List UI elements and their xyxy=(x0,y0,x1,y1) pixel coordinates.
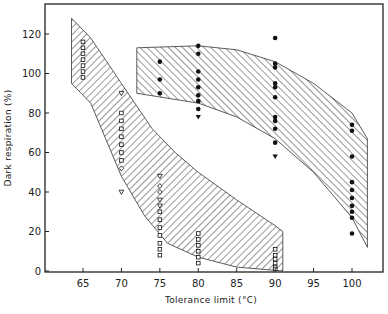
data-point-filled-circle xyxy=(273,36,278,41)
data-point-filled-circle xyxy=(196,99,201,104)
data-point-open-square xyxy=(81,64,85,68)
data-point-open-square xyxy=(273,261,277,265)
data-point-open-square xyxy=(81,46,85,50)
x-tick-label: 80 xyxy=(192,278,205,289)
data-point-open-square xyxy=(273,253,277,257)
data-point-filled-circle xyxy=(350,123,355,128)
x-tick-label: 85 xyxy=(230,278,243,289)
y-tick-label: 80 xyxy=(28,108,41,119)
data-point-filled-circle xyxy=(196,44,201,49)
y-tick-label: 60 xyxy=(28,147,41,158)
data-point-open-square xyxy=(158,247,162,251)
data-point-open-square xyxy=(196,232,200,236)
data-point-filled-circle xyxy=(196,51,201,56)
data-point-filled-circle xyxy=(196,107,201,112)
confidence-bands xyxy=(72,18,368,271)
data-point-open-square xyxy=(120,135,124,139)
data-point-filled-circle xyxy=(273,85,278,90)
data-point-filled-circle xyxy=(350,204,355,209)
data-point-open-square xyxy=(120,159,124,163)
data-point-open-square xyxy=(120,111,124,115)
data-point-open-square xyxy=(120,127,124,131)
data-point-open-square xyxy=(158,218,162,222)
y-axis-label: Dark respiration (%) xyxy=(3,89,13,186)
data-point-filled-circle xyxy=(350,128,355,133)
data-point-filled-circle xyxy=(273,65,278,70)
y-tick-label: 120 xyxy=(22,29,41,40)
data-point-open-square xyxy=(196,255,200,259)
data-point-filled-circle xyxy=(350,231,355,236)
data-point-open-square xyxy=(158,210,162,214)
x-tick-label: 75 xyxy=(153,278,166,289)
data-point-open-square xyxy=(81,76,85,80)
x-tick-label: 90 xyxy=(269,278,282,289)
data-point-open-square xyxy=(81,70,85,74)
data-point-filled-circle xyxy=(350,180,355,185)
data-point-open-square xyxy=(196,261,200,265)
data-point-filled-circle xyxy=(273,61,278,66)
y-tick-label: 20 xyxy=(28,226,41,237)
data-point-open-square xyxy=(120,143,124,147)
data-point-filled-circle xyxy=(196,69,201,74)
data-point-open-square xyxy=(81,58,85,62)
data-point-filled-circle xyxy=(158,91,163,96)
data-point-filled-triangle xyxy=(196,115,201,120)
data-point-open-square xyxy=(120,151,124,155)
data-point-filled-circle xyxy=(350,209,355,214)
data-point-filled-circle xyxy=(273,127,278,132)
data-point-filled-circle xyxy=(350,188,355,193)
data-point-open-square xyxy=(158,234,162,238)
data-point-filled-circle xyxy=(350,215,355,220)
data-point-filled-circle xyxy=(273,115,278,120)
data-point-filled-circle xyxy=(196,85,201,90)
y-tick-label: 100 xyxy=(22,68,41,79)
x-axis-label: Tolerance limit (°C) xyxy=(164,295,257,305)
data-point-open-square xyxy=(196,238,200,242)
x-tick-label: 70 xyxy=(115,278,128,289)
data-point-filled-circle xyxy=(273,95,278,100)
x-tick-label: 100 xyxy=(342,278,361,289)
data-point-filled-circle xyxy=(350,154,355,159)
data-point-filled-circle xyxy=(196,77,201,82)
data-point-open-square xyxy=(196,249,200,253)
data-point-open-square xyxy=(158,242,162,246)
data-point-filled-circle xyxy=(273,140,278,145)
x-tick-label: 95 xyxy=(307,278,320,289)
x-tick-label: 65 xyxy=(77,278,90,289)
data-point-open-square xyxy=(158,226,162,230)
data-point-open-square xyxy=(81,52,85,56)
scatter-chart: 65707580859095100 020406080100120 Tolera… xyxy=(0,0,388,314)
x-axis-ticks: 65707580859095100 xyxy=(77,268,362,289)
data-point-open-square xyxy=(81,40,85,44)
data-point-filled-circle xyxy=(273,119,278,124)
data-point-filled-circle xyxy=(196,93,201,98)
data-point-filled-circle xyxy=(350,196,355,201)
data-point-open-triangle xyxy=(119,190,124,194)
data-point-filled-circle xyxy=(273,81,278,86)
data-point-filled-circle xyxy=(158,59,163,64)
data-point-open-square xyxy=(120,119,124,123)
data-point-open-square xyxy=(273,247,277,251)
data-point-open-square xyxy=(273,257,277,261)
data-point-open-square xyxy=(196,244,200,248)
y-tick-label: 40 xyxy=(28,187,41,198)
data-point-filled-circle xyxy=(158,77,163,82)
data-point-filled-triangle xyxy=(273,154,278,159)
data-point-open-square xyxy=(158,253,162,257)
y-tick-label: 0 xyxy=(35,266,41,277)
